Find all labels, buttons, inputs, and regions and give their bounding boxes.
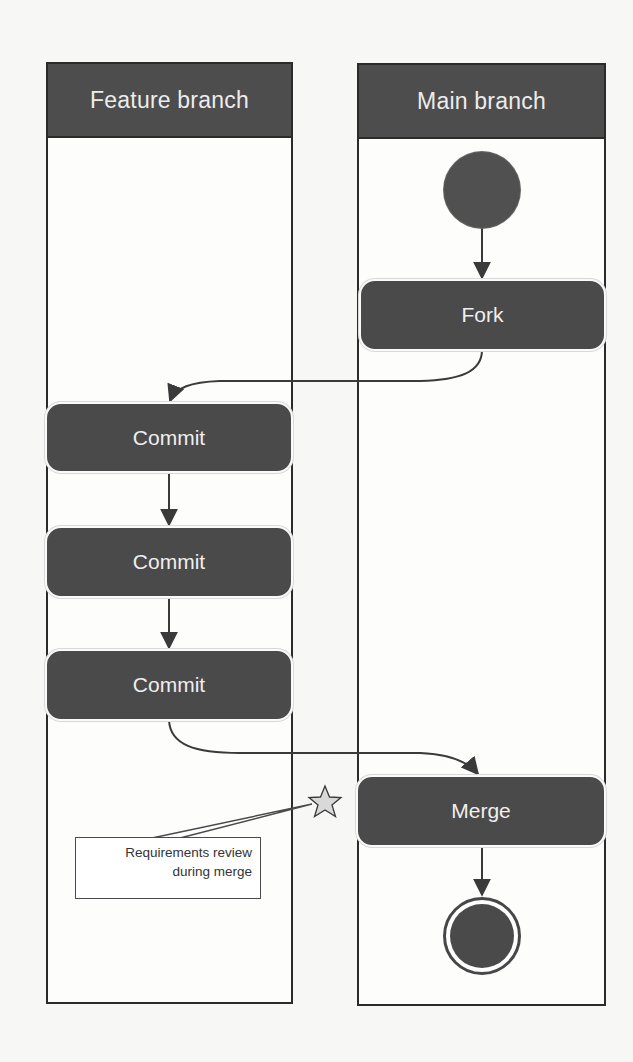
lane-header-feature-branch: Feature branch [48, 64, 291, 138]
action-fork: Fork [359, 279, 606, 351]
lane-header-main-branch: Main branch [359, 65, 604, 139]
action-merge-label: Merge [451, 799, 511, 823]
action-commit-2-label: Commit [133, 550, 205, 574]
initial-node [444, 152, 520, 228]
final-node [443, 897, 521, 975]
note-line-2: during merge [84, 862, 252, 881]
note-line-1: Requirements review [84, 843, 252, 862]
action-commit-2: Commit [45, 526, 293, 598]
final-node-inner [450, 904, 514, 968]
action-commit-3: Commit [45, 649, 293, 721]
star-icon [309, 786, 341, 817]
action-fork-label: Fork [462, 303, 504, 327]
action-commit-1: Commit [45, 402, 293, 473]
action-merge: Merge [356, 775, 606, 847]
action-commit-3-label: Commit [133, 673, 205, 697]
requirements-review-note: Requirements review during merge [75, 837, 261, 899]
action-commit-1-label: Commit [133, 426, 205, 450]
